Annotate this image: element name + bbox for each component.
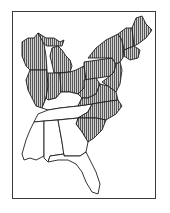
state-mississippi	[22, 121, 44, 160]
state-florida	[48, 152, 100, 194]
eastern-us-map	[0, 0, 170, 213]
state-michigan-lower	[50, 46, 72, 73]
state-maine	[132, 16, 152, 46]
